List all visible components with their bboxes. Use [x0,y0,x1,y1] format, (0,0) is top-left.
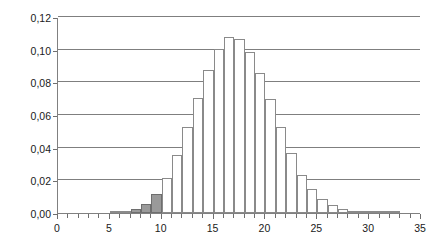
x-tick-mark [264,214,265,219]
x-tick-mark [379,214,380,218]
x-tick-mark [327,214,328,218]
x-tick-mark [254,214,255,218]
x-tick-mark [67,214,68,218]
x-tick-mark [181,214,182,218]
x-tick-mark [368,214,369,219]
y-tick-mark [53,181,57,182]
x-tick-mark [161,214,162,219]
x-tick-mark [420,214,421,219]
x-tick-mark [88,214,89,218]
x-tick-mark [399,214,400,218]
y-tick-mark [53,116,57,117]
x-tick-mark [306,214,307,218]
x-tick-mark [410,214,411,218]
x-tick-label: 15 [193,222,233,234]
x-tick-mark [171,214,172,218]
y-tick-mark [53,51,57,52]
x-tick-mark [337,214,338,218]
x-tick-mark [98,214,99,218]
x-tick-label: 20 [244,222,284,234]
x-tick-mark [119,214,120,218]
x-tick-label: 10 [141,222,181,234]
x-tick-mark [275,214,276,218]
x-tick-label: 30 [348,222,388,234]
x-tick-mark [316,214,317,219]
x-tick-mark [347,214,348,218]
x-tick-mark [150,214,151,218]
x-tick-label: 0 [37,222,77,234]
x-tick-mark [223,214,224,218]
x-tick-mark [233,214,234,218]
x-tick-mark [57,214,58,219]
x-tick-mark [389,214,390,218]
x-tick-mark [244,214,245,218]
x-tick-mark [213,214,214,219]
histogram-chart: 0,000,020,040,060,080,100,12 05101520253… [0,0,442,251]
x-tick-label: 25 [296,222,336,234]
y-tick-mark [53,18,57,19]
x-tick-mark [130,214,131,218]
x-tick-mark [192,214,193,218]
x-tick-mark [78,214,79,218]
x-tick-label: 5 [89,222,129,234]
x-tick-label: 35 [400,222,440,234]
y-tick-mark [53,214,57,215]
x-tick-mark [109,214,110,219]
x-tick-mark [296,214,297,218]
x-tick-mark [358,214,359,218]
x-tick-mark [140,214,141,218]
x-axis: 05101520253035 [0,0,442,251]
x-tick-mark [202,214,203,218]
x-tick-mark [285,214,286,218]
y-tick-mark [53,83,57,84]
y-tick-mark [53,149,57,150]
